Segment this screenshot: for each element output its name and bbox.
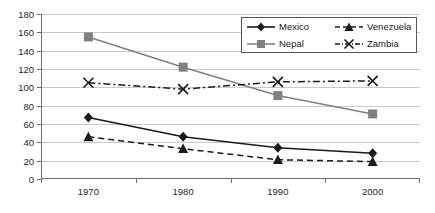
x-tick-mark — [325, 179, 326, 183]
legend-label-venezuela: Venezuela — [364, 21, 411, 32]
x-tick-mark — [231, 179, 232, 183]
data-point-diamond — [84, 113, 93, 123]
legend-label-mexico: Mexico — [276, 21, 309, 32]
legend-key-venezuela-icon — [334, 21, 364, 33]
series-line — [88, 137, 372, 162]
y-tick-label: 180 — [18, 9, 34, 20]
series-venezuela — [83, 132, 377, 166]
data-point-square — [179, 63, 188, 72]
y-tick-label: 140 — [18, 45, 34, 56]
y-tick-label: 120 — [18, 64, 34, 75]
x-tick-label: 2000 — [362, 186, 383, 197]
y-tick-label: 40 — [23, 137, 34, 148]
legend-item-mexico: Mexico — [242, 18, 330, 35]
legend-label-zambia: Zambia — [364, 38, 399, 49]
y-tick-label: 160 — [18, 27, 34, 38]
data-point-square — [273, 91, 282, 100]
y-tick-label: 100 — [18, 82, 34, 93]
legend-item-venezuela: Venezuela — [330, 18, 418, 35]
series-zambia — [83, 76, 377, 94]
data-point-triangle — [83, 132, 93, 142]
data-point-diamond — [179, 132, 188, 142]
y-tick-label: 80 — [23, 100, 34, 111]
x-tick-label: 1970 — [78, 186, 99, 197]
x-tick-mark — [419, 179, 420, 183]
series-line — [88, 118, 372, 154]
y-tick-label: 20 — [23, 155, 34, 166]
legend-key-mexico-icon — [246, 21, 276, 33]
legend-item-nepal: Nepal — [242, 35, 330, 52]
data-point-square — [368, 109, 377, 118]
x-tick-label: 1990 — [267, 186, 288, 197]
series-mexico — [84, 113, 377, 159]
x-tick-mark — [41, 179, 42, 183]
line-chart: 020406080100120140160180 197019801990200… — [0, 0, 435, 213]
y-tick-label: 0 — [29, 174, 34, 185]
legend-item-zambia: Zambia — [330, 35, 418, 52]
legend-key-nepal-icon — [246, 38, 276, 50]
chart-legend: Mexico Venezuela Nepal Zambia — [241, 17, 417, 53]
data-point-diamond — [273, 143, 282, 153]
y-tick-label: 60 — [23, 119, 34, 130]
legend-label-nepal: Nepal — [276, 38, 304, 49]
x-tick-label: 1980 — [173, 186, 194, 197]
legend-key-zambia-icon — [334, 38, 364, 50]
x-tick-mark — [136, 179, 137, 183]
data-point-square — [84, 32, 93, 41]
